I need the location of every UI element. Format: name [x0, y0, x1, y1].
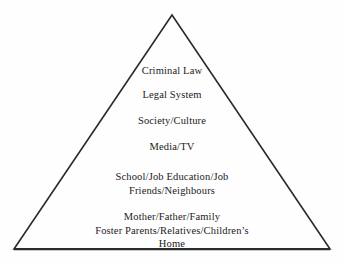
pyramid-figure: Criminal Law Legal System Society/Cultur…	[0, 0, 344, 263]
layer-line: Legal System	[0, 88, 344, 102]
pyramid-layer-school-friends: School/Job Education/Job Friends/Neighbo…	[0, 170, 344, 197]
pyramid-layer-legal-system: Legal System	[0, 88, 344, 102]
layer-line: Society/Culture	[0, 114, 344, 128]
layer-line: Foster Parents/Relatives/Children’s	[0, 224, 344, 238]
layer-line: Criminal Law	[0, 64, 344, 78]
pyramid-layer-family-home: Mother/Father/Family Foster Parents/Rela…	[0, 210, 344, 251]
pyramid-layer-society-culture: Society/Culture	[0, 114, 344, 128]
layer-line: School/Job Education/Job	[0, 170, 344, 184]
layer-line: Mother/Father/Family	[0, 210, 344, 224]
pyramid-layer-media-tv: Media/TV	[0, 140, 344, 154]
pyramid-layer-criminal-law: Criminal Law	[0, 64, 344, 78]
layer-line: Media/TV	[0, 140, 344, 154]
layer-line: Friends/Neighbours	[0, 184, 344, 198]
layer-line: Home	[0, 237, 344, 251]
